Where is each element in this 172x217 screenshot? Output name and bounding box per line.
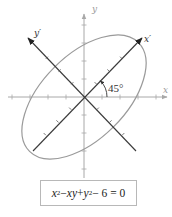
x-prime-axis-label: x′ bbox=[144, 34, 151, 44]
x-prime-axis-tick bbox=[69, 108, 71, 110]
equation-part-op: − 6 = 0 bbox=[92, 187, 125, 199]
rotation-angle-label: 45° bbox=[108, 82, 123, 94]
y-prime-axis-tick bbox=[109, 120, 111, 122]
y-prime-axis-tick bbox=[97, 108, 99, 110]
x-axis-label: x bbox=[163, 85, 168, 95]
y-prime-axis-label: y′ bbox=[33, 28, 41, 38]
x-prime-axis-tick bbox=[120, 57, 122, 59]
x-prime-axis-tick bbox=[56, 120, 58, 122]
equation-part-var: xy bbox=[67, 187, 77, 199]
y-prime-axis-tick bbox=[122, 133, 124, 135]
equation-box: x2 − xy + y2 − 6 = 0 bbox=[40, 180, 137, 206]
x-prime-axis-tick bbox=[44, 133, 46, 135]
x-prime-axis bbox=[33, 38, 142, 151]
y-axis-label: y bbox=[91, 4, 98, 14]
x-prime-axis-tick bbox=[95, 82, 97, 84]
x-prime-axis-tick bbox=[107, 69, 109, 71]
angle-arc-icon bbox=[100, 81, 107, 97]
